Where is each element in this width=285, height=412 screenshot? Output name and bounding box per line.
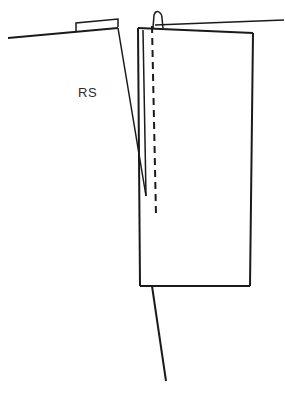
diagram-canvas: RS [0, 0, 285, 412]
line-diagram: RS [0, 0, 285, 412]
panel-top-edge [138, 28, 253, 33]
panel-right-edge [250, 33, 253, 286]
lower-descending-line [152, 286, 166, 381]
left-diagonal-line [118, 28, 146, 196]
panel-outer-left-edge [138, 28, 140, 286]
panel-inner-left-edge [143, 30, 146, 196]
label-rs: RS [78, 85, 97, 100]
upper-left-inclined-line [8, 28, 118, 38]
upper-right-extending-line [155, 20, 284, 25]
interior-dashed-line [152, 26, 156, 215]
